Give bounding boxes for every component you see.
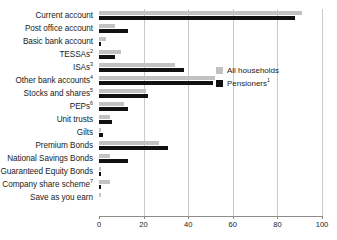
bar-pensioners bbox=[99, 159, 128, 163]
legend-label: All households bbox=[227, 66, 279, 75]
bar-row bbox=[99, 74, 322, 87]
axis-tick-label: 20 bbox=[139, 220, 147, 229]
category-label: ISAs3 bbox=[0, 61, 97, 74]
bar-row bbox=[99, 178, 322, 191]
category-label: Premium Bonds bbox=[0, 139, 97, 152]
bar-pensioners bbox=[99, 81, 213, 85]
bar-pensioners bbox=[99, 120, 112, 124]
bar-all-households bbox=[99, 180, 110, 184]
bar-all-households bbox=[99, 102, 124, 106]
bar-row bbox=[99, 22, 322, 35]
x-axis-line bbox=[99, 216, 322, 217]
category-label: Unit trusts bbox=[0, 113, 97, 126]
axis-tick bbox=[99, 216, 100, 219]
footnote-marker: 6 bbox=[90, 100, 93, 106]
bar-row bbox=[99, 48, 322, 61]
footnote-marker: 3 bbox=[90, 61, 93, 67]
bar-pensioners bbox=[99, 185, 101, 189]
category-label: National Savings Bonds bbox=[0, 152, 97, 165]
category-label: Guaranteed Equity Bonds bbox=[0, 165, 97, 178]
footnote-marker: 5 bbox=[90, 87, 93, 93]
legend-swatch bbox=[216, 80, 223, 87]
axis-tick-label: 80 bbox=[273, 220, 281, 229]
bar-pensioners bbox=[99, 146, 168, 150]
bar-all-households bbox=[99, 128, 101, 132]
bar-row bbox=[99, 126, 322, 139]
footnote-marker: 1 bbox=[267, 77, 270, 83]
bar-all-households bbox=[99, 50, 121, 54]
gridline bbox=[322, 9, 323, 216]
legend-item[interactable]: Pensioners1 bbox=[216, 78, 279, 89]
category-label: PEPs6 bbox=[0, 100, 97, 113]
category-label: Other bank accounts4 bbox=[0, 74, 97, 87]
bar-pensioners bbox=[99, 94, 148, 98]
category-label-column: Current accountPost office accountBasic … bbox=[0, 9, 97, 204]
axis-tick-label: 60 bbox=[229, 220, 237, 229]
bar-all-households bbox=[99, 193, 101, 197]
bar-all-households bbox=[99, 154, 110, 158]
bar-row bbox=[99, 152, 322, 165]
axis-tick-label: 40 bbox=[184, 220, 192, 229]
bar-row bbox=[99, 100, 322, 113]
axis-tick bbox=[144, 216, 145, 219]
category-label: Basic bank account bbox=[0, 35, 97, 48]
bar-row bbox=[99, 191, 322, 204]
bar-pensioners bbox=[99, 42, 101, 46]
category-label: Current account bbox=[0, 9, 97, 22]
bar-all-households bbox=[99, 141, 159, 145]
bar-all-households bbox=[99, 24, 115, 28]
footnote-marker: 4 bbox=[90, 74, 93, 80]
category-label: Gilts bbox=[0, 126, 97, 139]
bar-pensioners bbox=[99, 133, 103, 137]
bar-all-households bbox=[99, 115, 110, 119]
category-label: Save as you earn bbox=[0, 191, 97, 204]
bar-all-households bbox=[99, 37, 106, 41]
category-label: Stocks and shares5 bbox=[0, 87, 97, 100]
footnote-marker: 7 bbox=[90, 178, 93, 184]
bar-row bbox=[99, 139, 322, 152]
bar-row bbox=[99, 35, 322, 48]
bar-pensioners bbox=[99, 16, 295, 20]
plot-area bbox=[99, 9, 322, 216]
axis-tick-label: 100 bbox=[316, 220, 329, 229]
category-label: TESSAs2 bbox=[0, 48, 97, 61]
bar-row bbox=[99, 165, 322, 178]
bar-row bbox=[99, 113, 322, 126]
axis-tick-label: 0 bbox=[97, 220, 101, 229]
category-label: Company share scheme7 bbox=[0, 178, 97, 191]
legend-item[interactable]: All households bbox=[216, 65, 279, 76]
bar-rows bbox=[99, 9, 322, 204]
bar-row bbox=[99, 87, 322, 100]
axis-tick bbox=[322, 216, 323, 219]
bar-all-households bbox=[99, 167, 101, 171]
bar-row bbox=[99, 61, 322, 74]
bar-pensioners bbox=[99, 107, 128, 111]
bar-pensioners bbox=[99, 68, 184, 72]
footnote-marker: 2 bbox=[90, 48, 93, 54]
bar-pensioners bbox=[99, 172, 101, 176]
bar-pensioners bbox=[99, 55, 115, 59]
axis-tick bbox=[188, 216, 189, 219]
bar-chart: Current accountPost office accountBasic … bbox=[0, 0, 337, 240]
bar-all-households bbox=[99, 76, 215, 80]
bar-row bbox=[99, 9, 322, 22]
chart-legend: All householdsPensioners1 bbox=[216, 65, 279, 91]
bar-all-households bbox=[99, 63, 175, 67]
legend-swatch bbox=[216, 67, 223, 74]
axis-tick bbox=[277, 216, 278, 219]
category-label: Post office account bbox=[0, 22, 97, 35]
bar-all-households bbox=[99, 89, 146, 93]
bar-all-households bbox=[99, 11, 302, 15]
legend-label: Pensioners1 bbox=[227, 79, 270, 88]
bar-pensioners bbox=[99, 29, 128, 33]
axis-tick bbox=[233, 216, 234, 219]
